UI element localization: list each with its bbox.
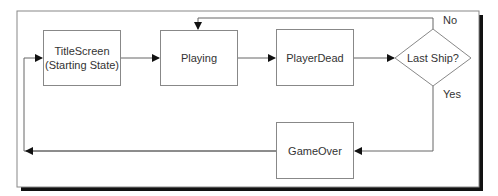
edge-label-no: No xyxy=(440,13,460,27)
title-screen-line1: TitleScreen xyxy=(54,44,109,58)
decision-label: Last Ship? xyxy=(395,29,471,86)
node-game-over-label: GameOver xyxy=(276,122,354,179)
edge-label-yes: Yes xyxy=(440,87,464,101)
title-screen-line2: (Starting State) xyxy=(45,58,119,72)
node-playing-label: Playing xyxy=(160,30,238,86)
node-title-screen-label: TitleScreen (Starting State) xyxy=(43,30,121,86)
node-player-dead-label: PlayerDead xyxy=(276,29,354,86)
